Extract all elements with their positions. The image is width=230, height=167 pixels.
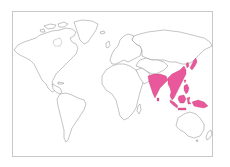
range-philippines	[184, 84, 189, 94]
iceland	[100, 31, 105, 34]
south-america	[57, 93, 86, 142]
new-zealand	[206, 130, 212, 140]
range-sumatra	[170, 100, 178, 108]
range-sulawesi	[187, 97, 191, 104]
range-borneo	[178, 95, 186, 103]
central-america	[52, 84, 62, 94]
greenland	[74, 20, 98, 44]
range-sri-lanka	[157, 98, 159, 101]
australia	[176, 112, 204, 138]
north-america	[14, 28, 78, 92]
range-java	[178, 108, 186, 110]
caribbean	[58, 82, 64, 84]
range-india	[148, 74, 168, 98]
range-taiwan	[184, 80, 186, 83]
world-map	[0, 0, 230, 167]
madagascar	[137, 104, 141, 114]
range-new-guinea	[192, 100, 208, 108]
tasmania	[196, 140, 198, 142]
range-mainland-asia	[168, 66, 186, 100]
british-isles	[106, 41, 110, 48]
